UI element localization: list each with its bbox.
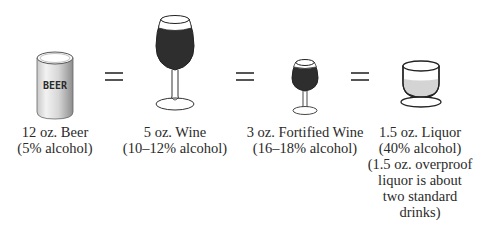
wine-volume: 5 oz. Wine xyxy=(115,124,235,140)
fortified-wine-glass-icon xyxy=(290,58,320,116)
wine-glass-icon xyxy=(153,14,197,112)
liquor-volume: 1.5 oz. Liquor xyxy=(365,124,475,140)
beer-volume: 12 oz. Beer xyxy=(0,124,110,140)
liquor-note-line: two standard xyxy=(365,188,475,204)
liquor-caption: 1.5 oz. Liquor (40% alcohol) (1.5 oz. ov… xyxy=(365,124,475,220)
beer-alcohol: (5% alcohol) xyxy=(0,140,110,156)
fortified-wine-alcohol: (16–18% alcohol) xyxy=(245,140,365,156)
equals-sign xyxy=(351,72,369,81)
fortified-wine-volume: 3 oz. Fortified Wine xyxy=(245,124,365,140)
beer-caption: 12 oz. Beer (5% alcohol) xyxy=(0,124,110,156)
fortified-wine-caption: 3 oz. Fortified Wine (16–18% alcohol) xyxy=(245,124,365,156)
wine-caption: 5 oz. Wine (10–12% alcohol) xyxy=(115,124,235,156)
liquor-glass-icon xyxy=(398,59,444,109)
liquor-note-line: drinks) xyxy=(365,204,475,220)
equals-sign xyxy=(236,72,254,81)
can-label: BEER xyxy=(43,80,68,91)
wine-alcohol: (10–12% alcohol) xyxy=(115,140,235,156)
liquor-alcohol: (40% alcohol) xyxy=(365,140,475,156)
equals-sign xyxy=(105,72,123,81)
beer-can-icon: BEER xyxy=(34,48,76,122)
liquor-note-line: (1.5 oz. overproof xyxy=(365,156,475,172)
liquor-note-line: liquor is about xyxy=(365,172,475,188)
